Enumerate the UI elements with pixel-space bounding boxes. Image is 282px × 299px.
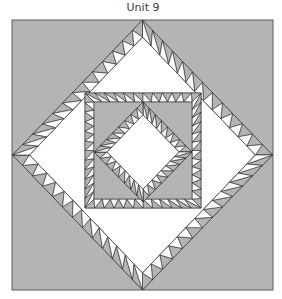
- quilt-block-diagram: [0, 0, 282, 299]
